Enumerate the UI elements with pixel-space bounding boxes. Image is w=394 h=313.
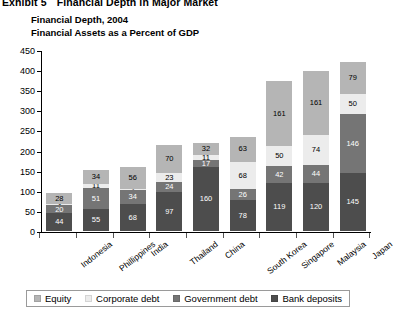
exhibit-number: Exhibit 5 [2, 0, 47, 8]
bar-segment-government-debt: 26 [230, 189, 256, 199]
y-axis-tick-mark [37, 131, 41, 132]
bar-thailand[interactable]: 70232497 [156, 145, 182, 231]
bar-value-label: 119 [273, 203, 285, 211]
bar-value-label: 68 [128, 214, 136, 222]
y-axis-tick-label: 200 [9, 148, 35, 157]
y-axis-tick-label: 50 [9, 208, 35, 217]
y-axis-tick-mark [37, 91, 41, 92]
bar-value-label: 97 [165, 208, 173, 216]
bar-value-label: 23 [165, 174, 173, 182]
y-axis-tick-label: 400 [9, 67, 35, 76]
bar-value-label: 63 [238, 145, 246, 153]
x-axis-label-china: China [223, 239, 247, 261]
bar-value-label: 56 [128, 174, 136, 182]
bar-value-label: 28 [55, 195, 63, 203]
bar-indonesia[interactable]: 2832044 [46, 193, 72, 231]
bar-segment-equity: 63 [230, 137, 256, 162]
bar-segment-bank-deposits: 55 [83, 209, 109, 231]
bar-value-label: 20 [55, 206, 63, 214]
bar-segment-government-debt: 17 [193, 160, 219, 167]
x-axis-tick-mark [333, 233, 334, 238]
bar-segment-bank-deposits: 160 [193, 167, 219, 231]
legend-swatch-icon [85, 295, 92, 302]
chart-title-block: Financial Depth, 2004 Financial Assets a… [31, 14, 199, 39]
legend-swatch-icon [271, 295, 278, 302]
bar-segment-government-debt: 20 [46, 205, 72, 213]
y-axis-tick-mark [37, 111, 41, 112]
bar-malaysia[interactable]: 1617444120 [303, 71, 329, 231]
bar-value-label: 160 [200, 195, 213, 203]
y-axis-tick-label: 0 [9, 228, 35, 237]
bar-value-label: 44 [312, 170, 320, 178]
bar-segment-corporate-debt: 68 [230, 162, 256, 189]
exhibit-header: Exhibit 5Financial Depth in Major Market [0, 0, 376, 9]
bar-value-label: 161 [273, 110, 286, 118]
bar-segment-bank-deposits: 119 [266, 183, 292, 231]
chart-subtitle: Financial Assets as a Percent of GDP [31, 27, 199, 40]
bar-segment-government-debt: 42 [266, 166, 292, 183]
bar-value-label: 145 [346, 198, 359, 206]
bar-segment-bank-deposits: 44 [46, 213, 72, 231]
bar-segment-equity: 56 [120, 167, 146, 190]
x-axis-line [41, 232, 371, 233]
bar-value-label: 161 [310, 99, 323, 107]
x-axis-tick-mark [149, 233, 150, 238]
bar-segment-equity: 28 [46, 193, 72, 204]
bar-segment-equity: 161 [303, 71, 329, 136]
legend-item-equity[interactable]: Equity [34, 293, 71, 304]
y-axis-tick-mark [37, 212, 41, 213]
x-axis-label-thailand: Thailand [188, 239, 220, 267]
x-axis-tick-mark [113, 233, 114, 238]
bar-segment-government-debt: 34 [120, 190, 146, 204]
x-axis-label-phillippines: Phillippines [117, 239, 157, 273]
bar-value-label: 44 [55, 218, 63, 226]
bar-segment-equity: 70 [156, 145, 182, 173]
bar-value-label: 32 [202, 145, 210, 153]
bar-segment-corporate-debt: 50 [266, 146, 292, 166]
bar-segment-bank-deposits: 68 [120, 204, 146, 231]
x-axis-tick-mark [223, 233, 224, 238]
bar-value-label: 26 [238, 191, 246, 199]
y-axis-tick-label: 250 [9, 127, 35, 136]
chart-title: Financial Depth, 2004 [31, 14, 199, 27]
x-axis-tick-mark [76, 233, 77, 238]
bar-segment-government-debt: 146 [340, 114, 366, 173]
legend-label: Corporate debt [96, 293, 159, 304]
bar-singapore[interactable]: 1615042119 [266, 81, 292, 231]
bar-segment-bank-deposits: 145 [340, 173, 366, 231]
y-axis-tick-label: 450 [9, 47, 35, 56]
bar-india[interactable]: 5623468 [120, 167, 146, 231]
x-axis-tick-mark [186, 233, 187, 238]
x-axis-label-japan: Japan [370, 239, 394, 261]
x-axis-label-malaysia: Malaysia [335, 239, 368, 268]
bar-japan[interactable]: 7950146145 [340, 62, 366, 231]
bar-value-label: 17 [202, 160, 210, 167]
legend-item-bank-deposits[interactable]: Bank deposits [271, 293, 342, 304]
x-axis-tick-mark [39, 233, 40, 238]
bar-value-label: 42 [275, 171, 283, 179]
y-axis-tick-mark [37, 152, 41, 153]
bar-value-label: 51 [92, 195, 100, 203]
plot-area: 050100150200250300350400450 283204434115… [41, 51, 371, 232]
legend-label: Bank deposits [282, 293, 342, 304]
bar-segment-equity: 161 [266, 81, 292, 146]
y-axis-tick-label: 300 [9, 107, 35, 116]
bar-value-label: 34 [128, 193, 136, 201]
bar-segment-equity: 32 [193, 143, 219, 156]
y-axis-line [41, 51, 42, 232]
legend-item-corporate-debt[interactable]: Corporate debt [85, 293, 159, 304]
y-axis-tick-mark [37, 71, 41, 72]
bar-value-label: 24 [165, 183, 173, 191]
bar-south-korea[interactable]: 63682678 [230, 137, 256, 231]
y-axis-tick-label: 150 [9, 168, 35, 177]
x-axis-tick-mark [259, 233, 260, 238]
bar-china[interactable]: 321117160 [193, 143, 219, 231]
y-axis-tick-mark [37, 172, 41, 173]
bar-value-label: 146 [346, 140, 359, 148]
exhibit-header-line: Exhibit 5Financial Depth in Major Market [0, 0, 376, 8]
bar-phillippines[interactable]: 34115155 [83, 170, 109, 231]
legend-item-government-debt[interactable]: Government debt [173, 293, 257, 304]
bar-segment-equity: 79 [340, 62, 366, 94]
bar-value-label: 120 [310, 203, 323, 211]
x-axis-label-indonesia: Indonesia [79, 239, 114, 270]
